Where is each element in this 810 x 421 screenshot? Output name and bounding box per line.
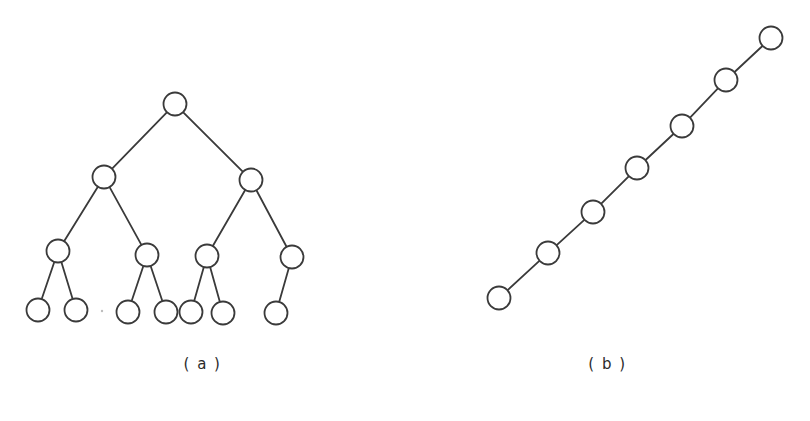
graph-edge [112, 112, 168, 169]
graph-edge [210, 267, 220, 303]
graph-edge [213, 190, 246, 247]
graph-edge [131, 265, 143, 301]
graph-edge [601, 176, 629, 204]
panel-b-chain-diagram: ( b ) [405, 0, 810, 421]
graph-node [488, 287, 511, 310]
graph-node [155, 301, 178, 324]
graph-edge [645, 134, 674, 161]
graph-edge [256, 190, 287, 248]
graph-edge [507, 260, 540, 290]
graph-edge [150, 265, 162, 301]
graph-node [281, 246, 304, 269]
graph-edge [194, 267, 204, 302]
graph-edge [734, 46, 763, 73]
graph-edge [64, 186, 98, 241]
panel-b-caption: ( b ) [405, 355, 810, 373]
graph-node [671, 115, 694, 138]
stray-speck-mark [101, 310, 103, 312]
graph-node [180, 301, 203, 324]
graph-node [117, 301, 140, 324]
panel-a-tree-diagram: ( a ) [0, 0, 405, 421]
graph-node [715, 69, 738, 92]
graph-edge [183, 112, 243, 172]
graph-edge [556, 219, 585, 245]
graph-edge [42, 261, 55, 299]
tree-graph-svg [0, 0, 405, 345]
graph-node [265, 302, 288, 325]
graph-node [582, 201, 605, 224]
graph-node [240, 169, 263, 192]
figure-root: ( a ) ( b ) [0, 0, 810, 421]
graph-node [212, 302, 235, 325]
panel-a-caption: ( a ) [0, 355, 405, 373]
graph-node [164, 93, 187, 116]
graph-node [93, 166, 116, 189]
graph-node [27, 299, 50, 322]
graph-node [537, 242, 560, 265]
graph-node [760, 27, 783, 50]
graph-node [136, 244, 159, 267]
graph-node [65, 299, 88, 322]
graph-edge [279, 268, 289, 303]
graph-node [626, 157, 649, 180]
graph-edge [61, 262, 73, 300]
graph-node [47, 240, 70, 263]
graph-edge [690, 88, 719, 118]
graph-edge [109, 187, 141, 246]
chain-graph-svg [405, 0, 810, 345]
graph-node [196, 245, 219, 268]
